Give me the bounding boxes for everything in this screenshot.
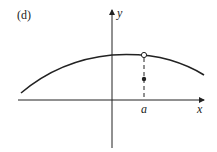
filled-point bbox=[142, 77, 146, 81]
x-axis-label: x bbox=[196, 102, 203, 116]
panel-label: (d) bbox=[17, 8, 31, 22]
tick-label-a: a bbox=[141, 102, 147, 116]
graph: (d) y x a bbox=[0, 0, 217, 152]
y-axis-label: y bbox=[116, 6, 123, 20]
open-point bbox=[141, 52, 146, 57]
